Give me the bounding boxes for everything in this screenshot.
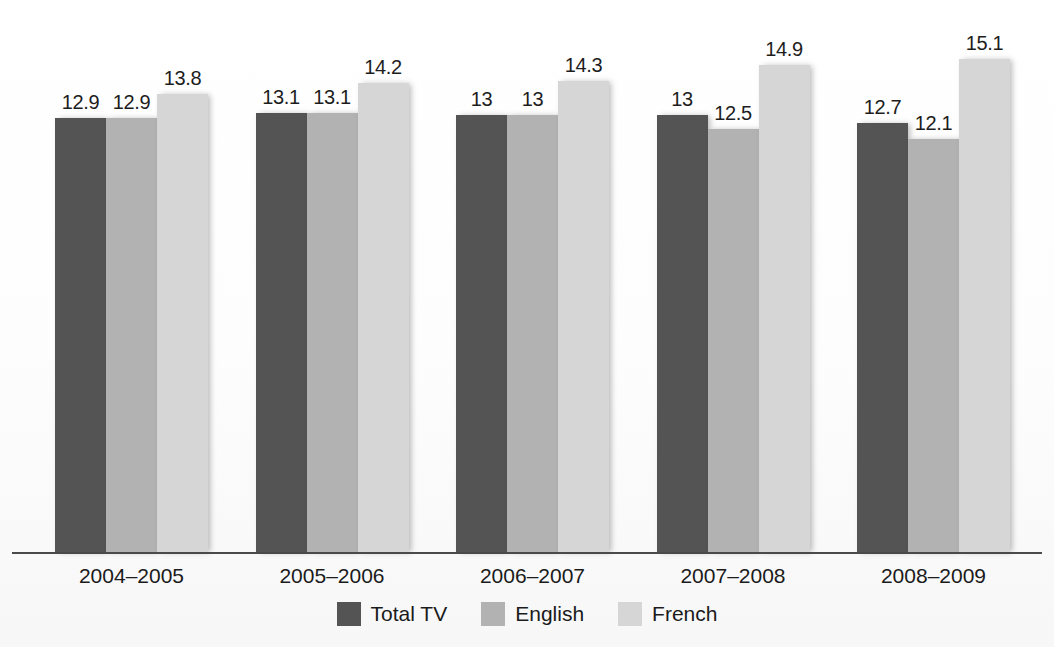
bar[interactable] [657,115,708,553]
bar[interactable] [959,59,1010,553]
x-axis-tick-label: 2008–2009 [834,563,1034,589]
legend-item[interactable]: French [618,602,717,626]
bar[interactable] [106,118,157,553]
bar-group [256,0,409,553]
bar-chart: 12.912.913.813.113.114.2131314.31312.514… [0,0,1054,647]
bar[interactable] [558,81,609,553]
bar-group [657,0,810,553]
bar[interactable] [256,113,307,553]
legend-label: English [515,602,584,626]
bar[interactable] [708,129,759,553]
bar-group [456,0,609,553]
legend-label: French [652,602,717,626]
x-axis-tick-label: 2006–2007 [433,563,633,589]
bar[interactable] [157,94,208,553]
chart-legend: Total TVEnglishFrench [0,602,1054,626]
bar[interactable] [507,115,558,553]
legend-item[interactable]: Total TV [337,602,448,626]
plot-area: 12.912.913.813.113.114.2131314.31312.514… [0,0,1054,553]
bar[interactable] [307,113,358,553]
bar[interactable] [456,115,507,553]
bar[interactable] [55,118,106,553]
x-axis-tick-label: 2004–2005 [32,563,232,589]
bar[interactable] [759,65,810,553]
legend-swatch-icon [481,602,505,626]
legend-swatch-icon [618,602,642,626]
bar[interactable] [857,123,908,553]
bar-group [857,0,1010,553]
legend-swatch-icon [337,602,361,626]
bar[interactable] [908,139,959,553]
x-axis-tick-label: 2005–2006 [232,563,432,589]
x-axis-tick-label: 2007–2008 [633,563,833,589]
bar-group [55,0,208,553]
legend-item[interactable]: English [481,602,584,626]
x-axis-baseline [12,552,1042,554]
legend-label: Total TV [371,602,448,626]
bar[interactable] [358,83,409,553]
